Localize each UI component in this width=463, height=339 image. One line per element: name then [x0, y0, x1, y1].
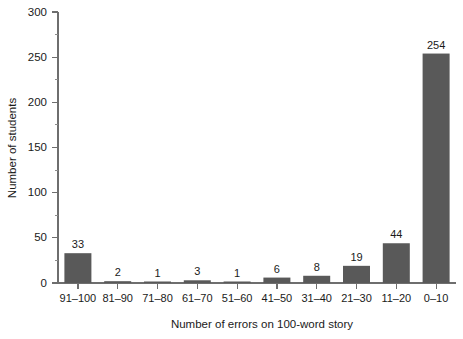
bar — [343, 266, 370, 283]
bar-value-label: 44 — [390, 228, 402, 240]
bar — [224, 282, 251, 284]
x-axis-tick-label: 91–100 — [60, 292, 97, 304]
x-axis-tick-label: 81–90 — [102, 292, 133, 304]
y-axis-tick-label: 300 — [28, 6, 47, 18]
bar-value-labels: 332131681944254 — [72, 39, 446, 279]
y-axis-tick-labels: 050100150200250300 — [28, 6, 47, 289]
bar-chart: 050100150200250300 91–10081–9071–8061–70… — [0, 0, 463, 339]
bar — [64, 253, 91, 283]
x-axis-tick-label: 0–10 — [424, 292, 448, 304]
y-axis-title: Number of students — [6, 98, 18, 199]
bar-value-label: 2 — [115, 266, 121, 278]
x-axis-ticks — [78, 283, 436, 289]
x-axis-tick-label: 41–50 — [262, 292, 293, 304]
bar-value-label: 1 — [234, 267, 240, 279]
x-axis-tick-label: 31–40 — [301, 292, 332, 304]
bar-value-label: 33 — [72, 238, 84, 250]
y-axis-tick-label: 150 — [28, 141, 47, 153]
axes — [58, 12, 456, 283]
y-axis-tick-label: 250 — [28, 51, 47, 63]
bar — [303, 276, 330, 283]
bar — [144, 282, 171, 284]
y-axis-ticks — [52, 12, 58, 283]
bar-value-label: 254 — [427, 39, 445, 51]
y-axis-tick-label: 0 — [41, 277, 47, 289]
x-axis-tick-labels: 91–10081–9071–8061–7051–6041–5031–4021–3… — [60, 292, 449, 304]
x-axis-tick-label: 21–30 — [341, 292, 372, 304]
x-axis-tick-label: 51–60 — [222, 292, 253, 304]
x-axis-tick-label: 61–70 — [182, 292, 213, 304]
bar — [263, 278, 290, 283]
bar-series — [64, 54, 449, 283]
y-axis-tick-label: 100 — [28, 186, 47, 198]
x-axis-tick-label: 71–80 — [142, 292, 173, 304]
bar-value-label: 6 — [274, 263, 280, 275]
bar-value-label: 19 — [350, 251, 362, 263]
bar — [383, 243, 410, 283]
bar-value-label: 3 — [194, 265, 200, 277]
y-axis-tick-label: 200 — [28, 96, 47, 108]
x-axis-title: Number of errors on 100-word story — [171, 318, 353, 330]
bar-value-label: 1 — [154, 267, 160, 279]
bar-value-label: 8 — [314, 261, 320, 273]
x-axis-tick-label: 11–20 — [381, 292, 411, 304]
bar — [423, 54, 450, 283]
y-axis-tick-label: 50 — [34, 231, 47, 243]
bar — [184, 280, 211, 283]
bar — [104, 281, 131, 283]
chart-canvas: 050100150200250300 91–10081–9071–8061–70… — [0, 0, 463, 339]
